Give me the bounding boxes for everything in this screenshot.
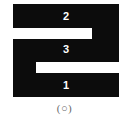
upper-slot-cutout: [13, 28, 92, 39]
region-label-3: 3: [59, 44, 73, 55]
figure-caption: (○): [0, 102, 129, 115]
lower-slot-cutout: [36, 62, 119, 73]
figure-panel: 2 3 1 (○): [0, 0, 129, 121]
region-label-2: 2: [59, 11, 73, 22]
region-label-1: 1: [59, 80, 73, 91]
